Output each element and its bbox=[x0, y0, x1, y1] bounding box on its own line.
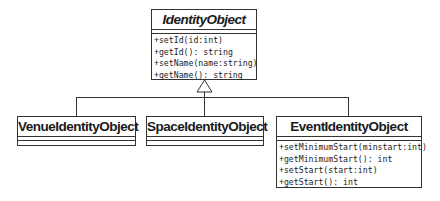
operation: +setStart(start:int) bbox=[279, 165, 419, 177]
connector-trunk bbox=[204, 92, 205, 116]
generalization-arrow-icon bbox=[196, 79, 213, 93]
operation: +setMinimumStart(minstart:int) bbox=[279, 142, 419, 154]
class-space-identity-object: SpaceIdentityObject bbox=[146, 116, 264, 146]
connector-event bbox=[348, 97, 349, 116]
class-identity-object: IdentityObject +setId(id:int) +getId(): … bbox=[151, 9, 257, 80]
operations-compartment: +setMinimumStart(minstart:int) +getMinim… bbox=[277, 141, 421, 189]
operations-compartment bbox=[147, 141, 263, 147]
operation: +setName(name:string) bbox=[154, 58, 254, 70]
class-event-identity-object: EventIdentityObject +setMinimumStart(min… bbox=[276, 116, 422, 188]
operation: +getStart(): int bbox=[279, 177, 419, 189]
operations-compartment: +setId(id:int) +getId(): string +setName… bbox=[152, 34, 256, 82]
class-name: SpaceIdentityObject bbox=[147, 117, 263, 137]
operation: +getMinimumStart(): int bbox=[279, 154, 419, 166]
connector-venue bbox=[76, 97, 77, 116]
operation: +getId(): string bbox=[154, 47, 254, 59]
connector-horizontal bbox=[76, 97, 348, 98]
class-venue-identity-object: VenueIdentityObject bbox=[17, 116, 136, 146]
class-name: IdentityObject bbox=[152, 10, 256, 30]
class-name: VenueIdentityObject bbox=[18, 117, 135, 137]
class-name: EventIdentityObject bbox=[277, 117, 421, 137]
operation: +setId(id:int) bbox=[154, 35, 254, 47]
operations-compartment bbox=[18, 141, 135, 147]
